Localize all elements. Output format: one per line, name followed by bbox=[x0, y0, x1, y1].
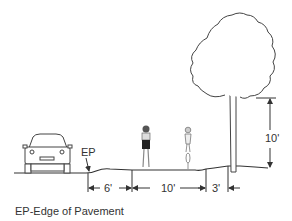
cyclist-icon bbox=[185, 127, 191, 169]
pedestrian-icon bbox=[142, 126, 150, 168]
trail-cross-section-diagram: EP 6' 10' 3' 10' EP-Edge of Pavement bbox=[0, 0, 292, 221]
tree-offset-dimension-label: 3' bbox=[211, 183, 221, 194]
car-icon bbox=[23, 134, 72, 173]
ep-leader-line bbox=[86, 158, 89, 171]
caption: EP-Edge of Pavement bbox=[14, 206, 125, 217]
shoulder-dimension-label: 6' bbox=[103, 183, 113, 194]
ep-label: EP bbox=[80, 147, 97, 158]
vertical-clearance-dimension-label: 10' bbox=[264, 133, 280, 144]
tree-icon bbox=[191, 13, 276, 172]
dimension-lines bbox=[88, 98, 276, 192]
diagram-drawing bbox=[0, 0, 292, 221]
path-width-dimension-label: 10' bbox=[160, 183, 176, 194]
